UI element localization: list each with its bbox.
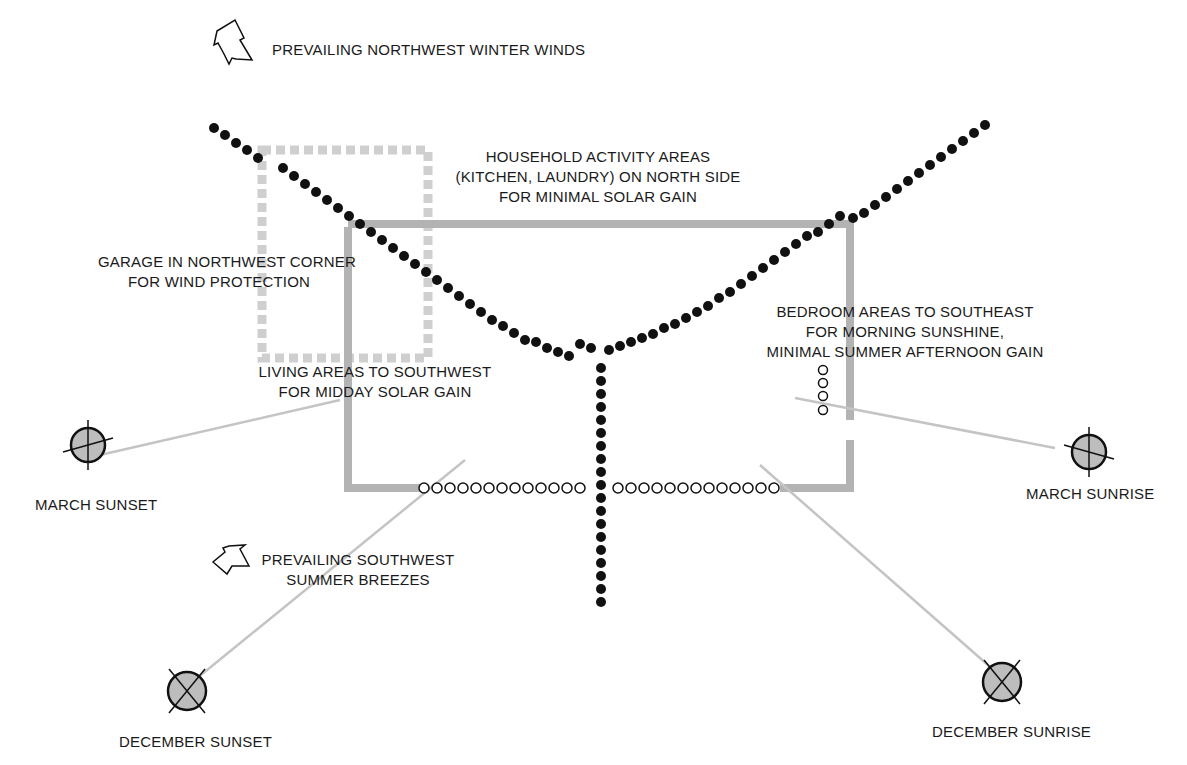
december-sunrise-label: DECEMBER SUNRISE [932, 722, 1091, 742]
march-sunrise-label: MARCH SUNRISE [1026, 484, 1154, 504]
living-line-1: LIVING AREAS TO SOUTHWEST [225, 362, 525, 382]
garage-label: GARAGE IN NORTHWEST CORNER FOR WIND PROT… [98, 252, 356, 292]
solar-orientation-diagram [0, 0, 1187, 765]
household-line-2: (KITCHEN, LAUNDRY) ON NORTH SIDE [448, 167, 748, 187]
living-line-2: FOR MIDDAY SOLAR GAIN [225, 382, 525, 402]
summer-breezes-label: PREVAILING SOUTHWEST SUMMER BREEZES [258, 550, 458, 590]
december-sunset-label: DECEMBER SUNSET [119, 732, 272, 752]
east-glazing-circles [819, 366, 828, 415]
household-line-1: HOUSEHOLD ACTIVITY AREAS [448, 147, 748, 167]
december-sunrise-icon [983, 660, 1021, 704]
garage-line-2: FOR WIND PROTECTION [98, 272, 356, 292]
winter-winds-label: PREVAILING NORTHWEST WINTER WINDS [272, 40, 585, 60]
march-sunset-icon [63, 420, 113, 470]
bedroom-line-1: BEDROOM AREAS TO SOUTHEAST [740, 302, 1070, 322]
garage-line-1: GARAGE IN NORTHWEST CORNER [98, 252, 356, 272]
living-areas-label: LIVING AREAS TO SOUTHWEST FOR MIDDAY SOL… [225, 362, 525, 402]
summer-breezes-line-2: SUMMER BREEZES [258, 570, 458, 590]
march-sunset-label: MARCH SUNSET [35, 495, 157, 515]
summer-breeze-arrow-icon [213, 545, 249, 574]
bedroom-line-3: MINIMAL SUMMER AFTERNOON GAIN [740, 342, 1070, 362]
household-areas-label: HOUSEHOLD ACTIVITY AREAS (KITCHEN, LAUND… [448, 147, 748, 207]
march-sunrise-icon [1064, 427, 1114, 477]
winter-wind-arrow-icon [214, 20, 252, 64]
bedroom-line-2: FOR MORNING SUNSHINE, [740, 322, 1070, 342]
bedroom-areas-label: BEDROOM AREAS TO SOUTHEAST FOR MORNING S… [740, 302, 1070, 362]
december-sunset-icon [168, 669, 206, 713]
sun-sight-lines [100, 398, 1055, 688]
household-line-3: FOR MINIMAL SOLAR GAIN [448, 187, 748, 207]
south-divider [596, 363, 606, 607]
summer-breezes-line-1: PREVAILING SOUTHWEST [258, 550, 458, 570]
